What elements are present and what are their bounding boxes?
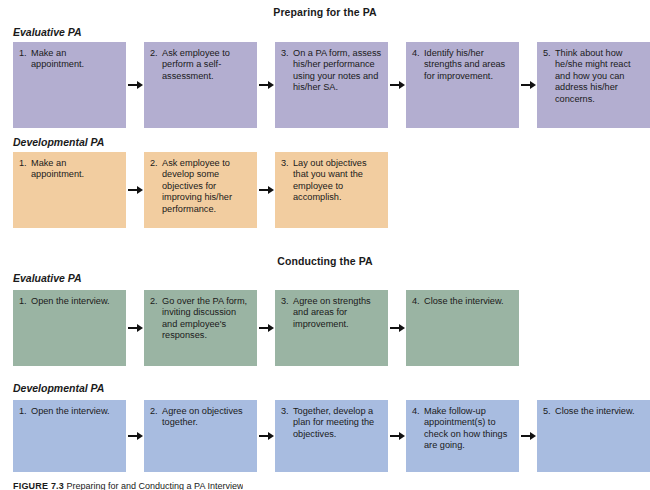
arrow-head bbox=[268, 81, 274, 89]
arrow-head bbox=[399, 432, 405, 440]
step-number: 5. bbox=[543, 48, 555, 59]
step-number: 1. bbox=[19, 158, 31, 169]
arrow-head bbox=[399, 324, 405, 332]
step-number: 4. bbox=[412, 296, 424, 307]
phase-title-preparing: Preparing for the PA bbox=[0, 6, 650, 18]
phase-title-conducting: Conducting the PA bbox=[0, 255, 650, 267]
flow-arrow-icon bbox=[519, 81, 537, 90]
step-number: 2. bbox=[150, 296, 162, 307]
process-step-box: 2.Ask employee to develop some objective… bbox=[144, 152, 257, 228]
process-step-box: 1.Make an appointment. bbox=[13, 42, 126, 128]
figure-caption-label: FIGURE 7.3 bbox=[13, 481, 64, 490]
flow-arrow-icon bbox=[257, 186, 275, 195]
process-step-box: 5.Think about how he/she might react and… bbox=[537, 42, 650, 128]
arrow-head bbox=[530, 81, 536, 89]
row-label-evaluative-preparing: Evaluative PA bbox=[13, 26, 82, 38]
flow-arrow-icon bbox=[126, 432, 144, 441]
step-text: Open the interview. bbox=[31, 296, 121, 307]
flow-arrow-icon bbox=[257, 432, 275, 441]
flow-arrow-icon bbox=[388, 432, 406, 441]
step-text: Together, develop a plan for meeting the… bbox=[293, 406, 383, 440]
process-step-box: 2.Ask employee to perform a self-assessm… bbox=[144, 42, 257, 128]
process-step-box: 3.Together, develop a plan for meeting t… bbox=[275, 400, 388, 472]
step-number: 2. bbox=[150, 406, 162, 417]
flow-arrow-icon bbox=[388, 81, 406, 90]
step-number: 4. bbox=[412, 48, 424, 59]
arrow-head bbox=[530, 432, 536, 440]
step-text: On a PA form, assess his/her performance… bbox=[293, 48, 383, 94]
process-step-box: 1.Open the interview. bbox=[13, 290, 126, 366]
process-step-box: 2.Agree on objectives together. bbox=[144, 400, 257, 472]
step-text: Ask employee to perform a self-assessmen… bbox=[162, 48, 252, 82]
step-number: 2. bbox=[150, 48, 162, 59]
flow-row-developmental-preparing: 1.Make an appointment.2.Ask employee to … bbox=[13, 152, 388, 228]
step-text: Close the interview. bbox=[424, 296, 514, 307]
process-step-box: 4.Identify his/her strengths and areas f… bbox=[406, 42, 519, 128]
step-text: Identify his/her strengths and areas for… bbox=[424, 48, 514, 82]
step-text: Agree on strengths and areas for improve… bbox=[293, 296, 383, 330]
flow-row-developmental-conducting: 1.Open the interview.2.Agree on objectiv… bbox=[13, 400, 650, 472]
flow-arrow-icon bbox=[257, 81, 275, 90]
flow-arrow-icon bbox=[126, 186, 144, 195]
row-label-developmental-conducting: Developmental PA bbox=[13, 382, 104, 394]
arrow-head bbox=[268, 324, 274, 332]
flow-track: 1.Open the interview.2.Go over the PA fo… bbox=[13, 290, 519, 366]
step-text: Make an appointment. bbox=[31, 48, 121, 71]
process-step-box: 4.Make follow-up appointment(s) to check… bbox=[406, 400, 519, 472]
flow-arrow-icon bbox=[257, 324, 275, 333]
process-step-box: 2.Go over the PA form, inviting discussi… bbox=[144, 290, 257, 366]
flow-track: 1.Make an appointment.2.Ask employee to … bbox=[13, 42, 650, 128]
step-text: Go over the PA form, inviting discussion… bbox=[162, 296, 252, 342]
step-text: Ask employee to develop some objectives … bbox=[162, 158, 252, 215]
process-step-box: 5.Close the interview. bbox=[537, 400, 650, 472]
process-step-box: 3.Lay out objectives that you want the e… bbox=[275, 152, 388, 228]
flow-row-evaluative-preparing: 1.Make an appointment.2.Ask employee to … bbox=[13, 42, 650, 128]
figure-caption: FIGURE 7.3 Preparing for and Conducting … bbox=[13, 481, 243, 490]
arrow-head bbox=[399, 81, 405, 89]
row-label-evaluative-conducting: Evaluative PA bbox=[13, 272, 82, 284]
figure-canvas: Preparing for the PA Evaluative PA 1.Mak… bbox=[0, 0, 650, 490]
arrow-head bbox=[137, 186, 143, 194]
step-number: 2. bbox=[150, 158, 162, 169]
step-text: Agree on objectives together. bbox=[162, 406, 252, 429]
process-step-box: 3.Agree on strengths and areas for impro… bbox=[275, 290, 388, 366]
arrow-head bbox=[268, 186, 274, 194]
step-text: Lay out objectives that you want the emp… bbox=[293, 158, 383, 204]
step-number: 1. bbox=[19, 48, 31, 59]
process-step-box: 1.Open the interview. bbox=[13, 400, 126, 472]
step-text: Close the interview. bbox=[555, 406, 645, 417]
process-step-box: 1.Make an appointment. bbox=[13, 152, 126, 228]
flow-arrow-icon bbox=[388, 324, 406, 333]
step-text: Make follow-up appointment(s) to check o… bbox=[424, 406, 514, 452]
flow-track: 1.Make an appointment.2.Ask employee to … bbox=[13, 152, 388, 228]
process-step-box: 4.Close the interview. bbox=[406, 290, 519, 366]
arrow-head bbox=[137, 432, 143, 440]
flow-arrow-icon bbox=[519, 432, 537, 441]
figure-caption-text: Preparing for and Conducting a PA Interv… bbox=[67, 481, 244, 490]
flow-track: 1.Open the interview.2.Agree on objectiv… bbox=[13, 400, 650, 472]
step-number: 3. bbox=[281, 158, 293, 169]
step-number: 3. bbox=[281, 406, 293, 417]
row-label-developmental-preparing: Developmental PA bbox=[13, 136, 104, 148]
step-number: 5. bbox=[543, 406, 555, 417]
step-number: 3. bbox=[281, 296, 293, 307]
flow-arrow-icon bbox=[126, 324, 144, 333]
step-number: 3. bbox=[281, 48, 293, 59]
step-number: 1. bbox=[19, 296, 31, 307]
process-step-box: 3.On a PA form, assess his/her performan… bbox=[275, 42, 388, 128]
step-text: Make an appointment. bbox=[31, 158, 121, 181]
flow-row-evaluative-conducting: 1.Open the interview.2.Go over the PA fo… bbox=[13, 290, 519, 366]
step-text: Think about how he/she might react and h… bbox=[555, 48, 645, 105]
flow-arrow-icon bbox=[126, 81, 144, 90]
step-number: 1. bbox=[19, 406, 31, 417]
arrow-head bbox=[137, 324, 143, 332]
step-text: Open the interview. bbox=[31, 406, 121, 417]
arrow-head bbox=[268, 432, 274, 440]
arrow-head bbox=[137, 81, 143, 89]
step-number: 4. bbox=[412, 406, 424, 417]
